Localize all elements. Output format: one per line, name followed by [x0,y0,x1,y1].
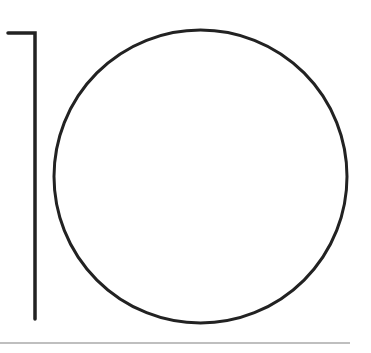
numeral-one-glyph [8,33,35,319]
numeral-ten-graphic [0,0,371,353]
one-stroke [8,33,35,319]
numeral-zero-glyph [54,30,347,323]
zero-circle [54,30,347,323]
